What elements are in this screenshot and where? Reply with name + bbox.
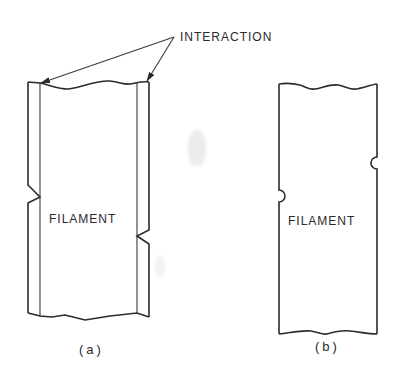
scan-smudge (155, 255, 165, 277)
arrow-to-right-interaction (147, 37, 174, 81)
filament-interaction-diagram: INTERACTION FILAMENT FILAMENT (a) (b) (0, 0, 403, 376)
panel-b-filament-label: FILAMENT (288, 215, 355, 227)
panel-a-caption: (a) (79, 343, 104, 356)
panel-b-bottom-break (279, 331, 377, 334)
arrow-to-left-interaction (41, 37, 174, 83)
interaction-label: INTERACTION (180, 31, 272, 43)
panel-a-filament (28, 81, 149, 320)
panel-b-caption: (b) (315, 340, 340, 353)
panel-b-right-wall (371, 84, 377, 334)
interaction-arrows (41, 37, 174, 83)
panel-b-top-break (279, 83, 377, 89)
scan-smudge (188, 130, 206, 166)
panel-a-top-break (28, 81, 149, 89)
panel-a-filament-label: FILAMENT (49, 213, 116, 225)
diagram-drawing (0, 0, 403, 376)
panel-a-outer-right-wall (137, 82, 149, 317)
panel-b-left-wall (279, 84, 285, 334)
panel-a-outer-left-wall (28, 82, 40, 313)
panel-a-bottom-break (28, 313, 149, 320)
panel-b-filament (279, 83, 377, 334)
